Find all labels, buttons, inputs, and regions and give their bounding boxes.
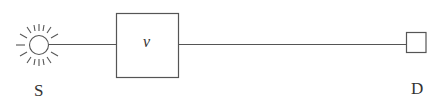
- optical-path-diagram: v S D: [0, 0, 443, 105]
- diagram-canvas: [0, 0, 443, 105]
- square-detector-icon: [407, 33, 427, 53]
- element-label: v: [143, 34, 150, 50]
- source-label: S: [34, 82, 43, 99]
- detector-label: D: [411, 80, 423, 97]
